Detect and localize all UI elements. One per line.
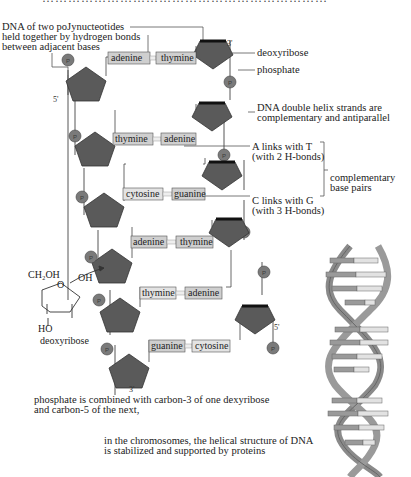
double-helix-illustration — [326, 246, 388, 477]
svg-text:cytosine: cytosine — [126, 188, 160, 199]
svg-text:cytosine: cytosine — [195, 340, 229, 351]
svg-text:OH: OH — [78, 272, 92, 283]
strands-note: DNA double helix strands are complementa… — [257, 103, 390, 123]
prime-5-left: 5' — [53, 95, 59, 104]
chromosome-note: in the chromosomes, the helical structur… — [104, 436, 313, 456]
svg-text:CH₂OH: CH₂OH — [28, 269, 60, 280]
svg-text:adenine: adenine — [111, 52, 143, 63]
at-pair-note: A links with T (with 2 H-bonds) — [252, 142, 324, 162]
svg-text:guanine: guanine — [151, 340, 183, 351]
svg-text:thymine: thymine — [142, 287, 175, 298]
base-pair-4: adenine thymine — [131, 236, 213, 248]
base-pair-2: thymine adenine — [113, 133, 196, 145]
base-pair-5: thymine adenine — [140, 287, 222, 299]
prime-5-right: 5' — [274, 323, 280, 332]
complementary-base-pairs-note: complementary base pairs — [330, 173, 395, 193]
svg-text:thymine: thymine — [115, 133, 148, 144]
phosphate-left-1 — [62, 54, 74, 66]
cg-pair-note: C links with G (with 3 H-bonds) — [252, 196, 324, 216]
base-pair-3: cytosine guanine — [123, 188, 206, 200]
deoxyribose-label: deoxyribose — [257, 48, 308, 58]
svg-text:HO: HO — [38, 323, 52, 334]
svg-text:adenine: adenine — [188, 287, 220, 298]
svg-text:deoxyribose: deoxyribose — [40, 335, 89, 346]
svg-text:thymine: thymine — [180, 236, 213, 247]
svg-text:guanine: guanine — [174, 188, 206, 199]
svg-text:thymine: thymine — [161, 52, 194, 63]
base-pair-1: adenine thymine — [108, 52, 196, 64]
polynucleotide-note: DNA of two poJynucteotides held together… — [2, 22, 140, 52]
prime-3-top: 3' — [227, 39, 233, 48]
prime-3-bottom: 3' — [129, 385, 135, 394]
svg-text:adenine: adenine — [133, 236, 165, 247]
svg-text:O: O — [57, 279, 64, 290]
phosphate-label: phosphate — [257, 65, 300, 75]
sugar-left-1 — [66, 67, 106, 101]
phosphate-bond-note: phosphate is combined with carbon-3 of o… — [34, 395, 269, 415]
svg-text:adenine: adenine — [164, 133, 196, 144]
base-pair-6: guanine cytosine — [149, 340, 230, 352]
